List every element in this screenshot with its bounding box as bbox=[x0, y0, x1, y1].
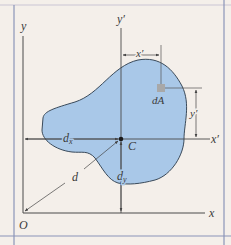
area-element-label: dA bbox=[152, 94, 165, 106]
x-prime-dimension-label: x′ bbox=[135, 47, 144, 59]
y-prime-dimension-label: y′ bbox=[189, 107, 198, 119]
d-label: d bbox=[72, 170, 79, 184]
centroid-label: C bbox=[128, 139, 137, 153]
y-axis-label: y bbox=[20, 19, 27, 33]
parallel-axis-diagram: y x O y′ x′ C dA x′ y′ dx dy d bbox=[0, 0, 231, 245]
origin-label: O bbox=[19, 218, 28, 232]
centroid-point bbox=[119, 137, 124, 142]
y-prime-axis-label: y′ bbox=[116, 12, 125, 26]
area-shape bbox=[42, 59, 187, 184]
x-prime-axis-label: x′ bbox=[210, 132, 219, 146]
area-element-dA bbox=[157, 84, 165, 92]
x-axis-label: x bbox=[208, 206, 215, 220]
